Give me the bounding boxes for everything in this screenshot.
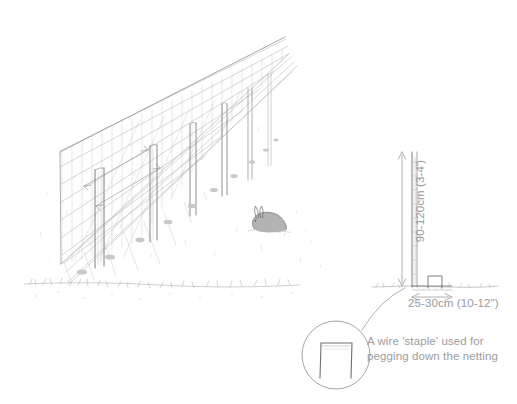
fence-posts — [95, 74, 271, 268]
netting-ground-skirt — [62, 56, 296, 285]
netting-ground-fold — [61, 54, 289, 264]
height-dimension-label: 90-120cm (3-4') — [414, 141, 426, 261]
elevation-group — [372, 152, 498, 300]
staple-detail-caption: A wire 'staple' used for pegging down th… — [367, 334, 498, 364]
height-dimension-arrow — [398, 152, 405, 286]
staple-caption-line-1: A wire 'staple' used for — [367, 334, 498, 349]
rabbit — [248, 206, 290, 233]
netting-left-edge — [60, 152, 61, 264]
ground-line — [24, 127, 321, 300]
fence-post — [248, 88, 252, 180]
detail-leader-line — [362, 288, 405, 330]
detail-circle — [302, 321, 370, 389]
staple-caption-line-2: pegging down the netting — [367, 349, 498, 364]
fence-post — [268, 74, 271, 166]
fence-post — [190, 122, 196, 216]
width-dimension-label: 25-30cm (10-12") — [408, 297, 499, 309]
wire-staple-shape — [320, 343, 352, 378]
fence-group — [58, 36, 297, 285]
diagram-page: .ink { stroke:#8e8e8e; fill:none; stroke… — [0, 0, 517, 404]
